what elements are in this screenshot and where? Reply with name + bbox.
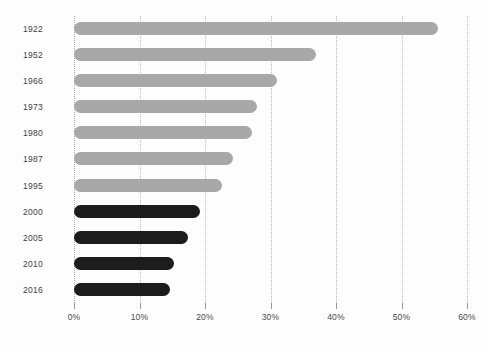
y-axis-label-1966: 1966: [0, 68, 43, 94]
x-axis-labels: 0%10%20%30%40%50%60%: [74, 312, 467, 332]
x-axis-label-20%: 20%: [196, 312, 214, 322]
x-axis-label-40%: 40%: [327, 312, 345, 322]
bar-row: [74, 94, 467, 120]
y-axis-label-1973: 1973: [0, 94, 43, 120]
y-axis-label-2016: 2016: [0, 277, 43, 303]
y-axis-label-1995: 1995: [0, 173, 43, 199]
x-axis-label-30%: 30%: [262, 312, 280, 322]
bar-1952: [74, 48, 316, 61]
bar-row: [74, 199, 467, 225]
y-axis-label-2005: 2005: [0, 225, 43, 251]
x-axis-label-0%: 0%: [68, 312, 81, 322]
y-axis-label-1980: 1980: [0, 120, 43, 146]
tick-mark-10%: [140, 303, 141, 309]
bar-row: [74, 68, 467, 94]
tick-mark-0%: [74, 303, 75, 309]
bar-row: [74, 225, 467, 251]
y-axis-label-2000: 2000: [0, 199, 43, 225]
y-axis-label-1987: 1987: [0, 146, 43, 172]
bar-row: [74, 16, 467, 42]
tick-mark-60%: [467, 303, 468, 309]
y-axis-label-1952: 1952: [0, 42, 43, 68]
tick-mark-40%: [336, 303, 337, 309]
bar-1922: [74, 22, 438, 35]
gridline-60%: [467, 16, 469, 303]
bar-1995: [74, 179, 222, 192]
tick-mark-30%: [271, 303, 272, 309]
bar-chart: 1922195219661973198019871995200020052010…: [0, 0, 488, 350]
y-axis-label-1922: 1922: [0, 16, 43, 42]
bar-row: [74, 120, 467, 146]
bar-2005: [74, 231, 188, 244]
x-axis-label-10%: 10%: [131, 312, 149, 322]
bar-row: [74, 277, 467, 303]
y-axis-labels: 1922195219661973198019871995200020052010…: [0, 16, 60, 303]
bar-2000: [74, 205, 200, 218]
bar-row: [74, 42, 467, 68]
bar-row: [74, 146, 467, 172]
bars-container: [74, 16, 467, 303]
tick-mark-50%: [402, 303, 403, 309]
bar-1980: [74, 126, 252, 139]
y-axis-label-2010: 2010: [0, 251, 43, 277]
bar-1987: [74, 152, 233, 165]
bar-1966: [74, 74, 277, 87]
tick-mark-20%: [205, 303, 206, 309]
x-axis-label-60%: 60%: [458, 312, 476, 322]
bar-row: [74, 173, 467, 199]
bar-row: [74, 251, 467, 277]
x-axis-label-50%: 50%: [393, 312, 411, 322]
bar-2016: [74, 283, 170, 296]
bar-1973: [74, 100, 257, 113]
bar-2010: [74, 257, 174, 270]
